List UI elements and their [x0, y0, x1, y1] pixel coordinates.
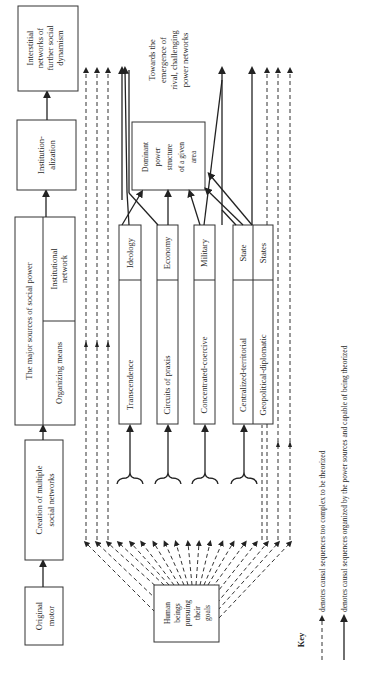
power-source-military: Concentrated-coercive Military — [194, 225, 215, 424]
geopolitical-diplomatic-label: Geopolitical-diplomatic — [258, 334, 268, 415]
transcendence-label: Transcendence — [125, 359, 135, 410]
major-sources-box: The major sources of social power Organi… — [15, 217, 75, 425]
social-power-causal-diagram: Original motor Creation of multiple soci… — [0, 0, 369, 675]
economy-label: Economy — [162, 236, 172, 269]
creation-line2: social networks — [46, 473, 56, 526]
annotation-line3: rival, challenging — [169, 30, 179, 90]
centralized-territorial-label: Centralized-territorial — [238, 337, 248, 412]
human-line2: beings — [173, 603, 182, 623]
creation-networks-box: Creation of multiple social networks — [25, 440, 63, 560]
human-line3: pursuing — [183, 600, 192, 627]
power-source-ideology: Transcendence Ideology — [119, 225, 141, 424]
dominant-line4: of a given — [177, 142, 186, 172]
creation-line1: Creation of multiple — [34, 465, 44, 534]
state-label: State — [238, 244, 248, 261]
dashed-arrows-left — [84, 70, 110, 540]
institutionalization-line1: Institution- — [36, 136, 46, 174]
interstitial-line1: Interstitial — [25, 30, 35, 66]
original-motor-line1: Original — [34, 601, 44, 630]
human-line4: their — [193, 606, 202, 620]
original-motor-line2: motor — [46, 606, 56, 626]
ideology-label: Ideology — [125, 237, 135, 268]
military-label: Military — [199, 238, 209, 267]
states-label: States — [258, 243, 268, 263]
human-line5: goals — [203, 605, 212, 621]
dominant-line3: structure — [165, 143, 174, 170]
human-line1: Human — [163, 602, 172, 624]
interstitial-line3: further social — [45, 25, 55, 71]
major-sources-title: The major sources of social power — [24, 262, 34, 379]
key-title: Key — [296, 632, 306, 647]
interstitial-line2: networks of — [35, 28, 45, 69]
key-legend: Key denotes causal sequences too complex… — [296, 345, 349, 660]
institutional-network-line2: network — [59, 254, 69, 283]
interstitial-networks-box: Interstitial networks of further social … — [18, 6, 78, 91]
key-dashed-label: denotes causal sequences too complex to … — [318, 450, 327, 612]
interstitial-line4: dynamism — [55, 30, 65, 66]
annotation-line1: Towards the — [147, 39, 157, 81]
rival-networks-annotation: Towards the emergence of rival, challeng… — [147, 30, 190, 90]
human-beings-box: Human beings pursuing their goals — [154, 585, 219, 642]
power-source-state: Centralized-territorial State Geopolitic… — [233, 225, 273, 424]
dominant-line1: Dominant — [141, 141, 150, 172]
braces — [117, 425, 262, 540]
institutional-network-line1: Institutional — [49, 248, 59, 290]
institutionalization-line2: alization — [47, 140, 57, 170]
key-solid-label: denotes causal sequences organized by th… — [340, 345, 349, 612]
original-motor-box: Original motor — [25, 587, 63, 645]
annotation-line2: emergence of — [158, 37, 168, 83]
dominant-line2: power — [153, 147, 162, 166]
organizing-means-label: Organizing means — [54, 342, 64, 404]
dominant-power-box: Dominant power structure of a given area — [132, 122, 205, 190]
circuits-of-praxis-label: Circuits of praxis — [162, 355, 172, 414]
power-source-economy: Circuits of praxis Economy — [157, 225, 178, 424]
dominant-line5: area — [189, 150, 198, 163]
annotation-line4: power networks — [180, 33, 190, 88]
concentrated-coercive-label: Concentrated-coercive — [199, 336, 209, 413]
institutionalization-box: Institution- alization — [17, 120, 76, 190]
